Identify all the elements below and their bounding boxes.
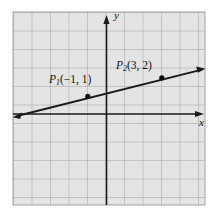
p1-coordinates: (−1, 1) (60, 73, 91, 85)
p1-variable: P (49, 73, 56, 85)
x-axis-label: x (199, 117, 204, 128)
graph-canvas (0, 0, 217, 219)
data-point-p2 (159, 75, 164, 80)
point-label-p2: P2(3, 2) (116, 60, 152, 73)
point-label-p1: P1(−1, 1) (49, 74, 91, 87)
y-axis-label: y (114, 10, 119, 21)
coordinate-plane-figure: P1(−1, 1) P2(3, 2) y x (0, 0, 217, 219)
grid-lines (13, 12, 205, 205)
p2-variable: P (116, 59, 123, 71)
data-point-p1 (85, 94, 90, 99)
p2-coordinates: (3, 2) (127, 59, 152, 71)
